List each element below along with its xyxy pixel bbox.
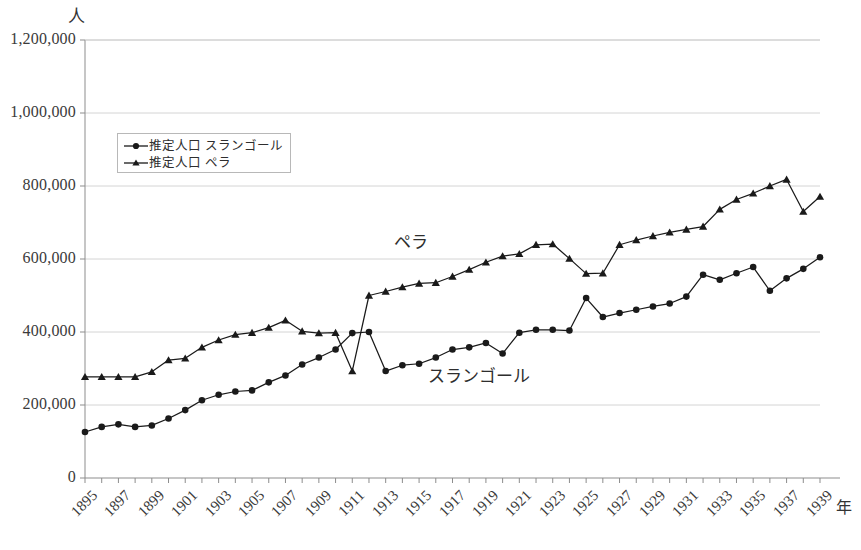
legend-circle-marker-icon <box>123 139 149 153</box>
y-axis-tick-label: 1,000,000 <box>10 103 76 121</box>
x-axis-ticks <box>85 478 820 483</box>
data-series-layer <box>81 176 824 436</box>
legend-label-perak: 推定人口 ペラ <box>149 156 231 170</box>
y-axis-tick-label: 200,000 <box>23 395 76 413</box>
y-axis-tick-label: 600,000 <box>23 249 76 267</box>
chart-canvas <box>0 0 861 550</box>
legend-item-perak: 推定人口 ペラ <box>123 154 285 171</box>
y-axis-tick-label: 800,000 <box>23 176 76 194</box>
legend-triangle-marker-icon <box>123 156 149 170</box>
series-selangor <box>82 254 824 435</box>
y-axis-tick-label: 0 <box>68 468 76 486</box>
y-axis-tick-label: 1,200,000 <box>10 30 76 48</box>
series-annotation-selangor: スランゴール <box>428 362 530 387</box>
y-axis-ticks <box>80 40 85 478</box>
chart-legend: 推定人口 スランゴール 推定人口 ペラ <box>117 133 291 173</box>
y-axis-tick-label: 400,000 <box>23 322 76 340</box>
series-annotation-perak: ペラ <box>394 228 428 253</box>
population-line-chart: 人 年 1,200,0001,000,000800,000600,000400,… <box>0 0 861 550</box>
legend-label-selangor: 推定人口 スランゴール <box>149 139 283 153</box>
legend-item-selangor: 推定人口 スランゴール <box>123 137 285 154</box>
